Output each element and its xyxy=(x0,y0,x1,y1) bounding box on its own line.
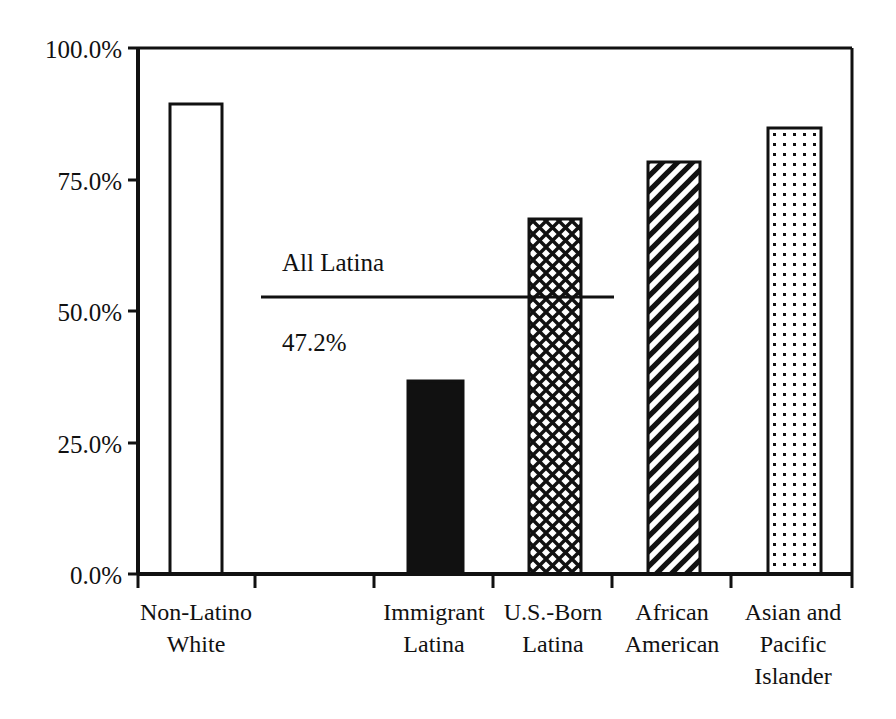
cat1-line1: Immigrant xyxy=(383,599,485,625)
y-tick-label-0: 0.0% xyxy=(70,562,122,589)
x-category-label-non-latino-white: Non-Latino White xyxy=(140,599,252,657)
cat2-line2: Latina xyxy=(522,631,584,657)
y-tick-label-75: 75.0% xyxy=(57,168,122,195)
bar-us-born-latina xyxy=(529,219,581,574)
cat4-line1: Asian and xyxy=(745,599,842,625)
y-tick-label-100: 100.0% xyxy=(45,36,122,63)
cat1-line2: Latina xyxy=(403,631,465,657)
plot-area-background xyxy=(138,48,852,574)
x-category-label-african-american: African American xyxy=(625,599,720,657)
bar-african-american xyxy=(648,162,700,574)
cat0-line1: Non-Latino xyxy=(140,599,252,625)
x-category-label-us-born-latina: U.S.-Born Latina xyxy=(504,599,603,657)
cat3-line2: American xyxy=(625,631,720,657)
all-latina-line-label: All Latina xyxy=(282,249,384,276)
x-category-label-immigrant-latina: Immigrant Latina xyxy=(383,599,485,657)
y-tick-label-50: 50.0% xyxy=(57,299,122,326)
x-axis-ticks xyxy=(138,574,852,588)
all-latina-value-label: 47.2% xyxy=(282,329,347,356)
cat3-line1: African xyxy=(635,599,708,625)
bar-chart: 100.0% 75.0% 50.0% 25.0% 0.0% xyxy=(0,0,896,719)
chart-canvas: 100.0% 75.0% 50.0% 25.0% 0.0% xyxy=(0,0,896,719)
bar-immigrant-latina xyxy=(408,381,463,574)
x-category-label-asian-pacific-islander: Asian and Pacific Islander xyxy=(745,599,842,689)
cat0-line2: White xyxy=(167,631,226,657)
y-tick-label-25: 25.0% xyxy=(57,431,122,458)
cat4-line3: Islander xyxy=(754,663,831,689)
bar-non-latino-white xyxy=(170,104,222,574)
bar-asian-pacific-islander xyxy=(768,128,821,574)
cat2-line1: U.S.-Born xyxy=(504,599,603,625)
cat4-line2: Pacific xyxy=(760,631,827,657)
